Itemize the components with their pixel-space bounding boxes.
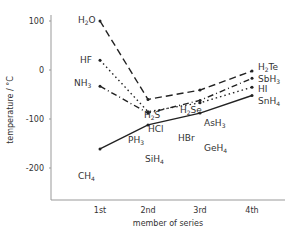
point-label: AsH3 <box>204 118 226 129</box>
point-label: HF <box>80 55 92 65</box>
y-tick-label: -100 <box>26 115 44 124</box>
point-label: H2O <box>78 15 96 26</box>
point-label: HI <box>258 84 267 94</box>
y-axis-title: temperature / °C <box>6 76 15 144</box>
x-axis-title: member of series <box>133 219 203 228</box>
point-label: GeH4 <box>204 143 227 154</box>
point-label: H2Se <box>180 105 202 116</box>
point-label: HBr <box>178 133 195 143</box>
point-label: H2Te <box>258 62 279 73</box>
series-line <box>100 21 252 99</box>
point-label: SiH4 <box>145 154 164 165</box>
point-label: H2S <box>144 110 161 121</box>
y-tick-label: 0 <box>39 66 44 75</box>
point-label: SnH4 <box>258 96 280 107</box>
chart: 1000-100-2001st2nd3rd4thmember of series… <box>0 0 289 232</box>
x-tick-label: 3rd <box>193 206 206 215</box>
series-line <box>100 78 252 113</box>
x-tick-label: 2nd <box>140 206 155 215</box>
y-tick-label: -200 <box>26 164 44 173</box>
x-tick-label: 1st <box>94 206 106 215</box>
y-tick-label: 100 <box>29 17 44 26</box>
series-line <box>100 95 252 148</box>
point-label: HCl <box>148 124 164 134</box>
point-label: CH4 <box>78 171 95 182</box>
point-label: NH3 <box>74 78 92 89</box>
x-tick-label: 4th <box>245 206 258 215</box>
point-label: PH3 <box>128 135 144 146</box>
